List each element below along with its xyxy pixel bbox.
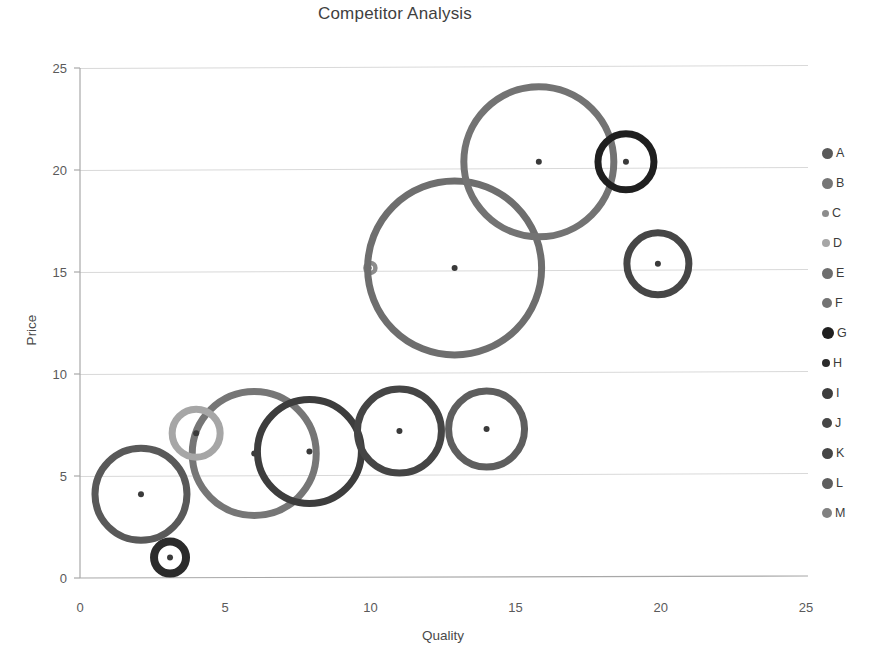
y-tick-label-5: 5 [60, 469, 67, 484]
legend-label-E: E [836, 267, 844, 280]
bubble-D [172, 409, 220, 457]
legend-swatch-K-icon [822, 448, 833, 459]
legend-item-L[interactable]: L [822, 468, 888, 498]
legend-item-M[interactable]: M [822, 498, 888, 528]
bubble-E [368, 181, 542, 355]
legend-item-F[interactable]: F [822, 288, 888, 318]
bubble-markers [95, 87, 689, 574]
bubble-center-dot-E [452, 265, 458, 271]
bubble-center-dot-F [536, 159, 542, 165]
legend-swatch-A-icon [822, 148, 833, 159]
gridline-y-15 [80, 270, 808, 273]
legend-label-D: D [833, 237, 842, 250]
bubble-center-dot-D [193, 430, 199, 436]
y-tick-label-15: 15 [53, 265, 67, 280]
gridline-y-10 [80, 372, 808, 375]
x-tick-label-10: 10 [363, 600, 377, 615]
bubble-center-dot-I [306, 449, 312, 455]
x-axis-line [80, 576, 808, 578]
x-tick-label-5: 5 [222, 600, 229, 615]
legend-swatch-C-icon [822, 210, 829, 217]
legend-item-C[interactable]: C [822, 198, 888, 228]
legend-swatch-G-icon [822, 327, 834, 339]
legend-item-B[interactable]: B [822, 168, 888, 198]
legend-label-F: F [835, 297, 843, 310]
legend-swatch-B-icon [822, 178, 833, 189]
legend-swatch-F-icon [822, 298, 832, 308]
legend-item-K[interactable]: K [822, 438, 888, 468]
plot-area: 0510152025 0510152025 Price Quality [0, 0, 893, 672]
y-axis-tick-labels: 0510152025 [53, 61, 67, 586]
legend-label-K: K [836, 447, 844, 460]
legend-label-J: J [835, 417, 841, 430]
legend-swatch-E-icon [822, 268, 833, 279]
bubble-J [627, 233, 689, 295]
gridlines [80, 66, 808, 477]
y-tick-label-0: 0 [60, 571, 67, 586]
legend-swatch-L-icon [822, 478, 833, 489]
x-tick-label-15: 15 [508, 600, 522, 615]
legend: ABCDEFGHIJKLM [822, 138, 888, 528]
legend-swatch-D-icon [822, 239, 830, 247]
legend-label-L: L [836, 477, 843, 490]
legend-item-G[interactable]: G [822, 318, 888, 348]
bubble-H [154, 542, 186, 574]
legend-swatch-M-icon [822, 508, 832, 518]
x-tick-label-20: 20 [654, 600, 668, 615]
bubble-A [95, 448, 187, 540]
x-tick-label-0: 0 [76, 600, 83, 615]
legend-item-H[interactable]: H [822, 348, 888, 378]
bubble-F [464, 87, 614, 237]
gridline-y-20 [80, 168, 808, 171]
x-axis-title: Quality [422, 628, 464, 643]
legend-item-E[interactable]: E [822, 258, 888, 288]
bubble-center-dot-J [655, 261, 661, 267]
bubble-G [598, 134, 654, 190]
bubble-L [449, 391, 525, 467]
x-tick-label-25: 25 [799, 600, 813, 615]
bubble-K [357, 389, 441, 473]
y-tick-label-10: 10 [53, 367, 67, 382]
legend-label-H: H [833, 357, 842, 370]
legend-item-J[interactable]: J [822, 408, 888, 438]
legend-label-A: A [836, 147, 844, 160]
legend-item-I[interactable]: I [822, 378, 888, 408]
legend-swatch-J-icon [822, 418, 832, 428]
bubble-center-dot-H [167, 555, 173, 561]
y-tick-label-25: 25 [53, 61, 67, 76]
y-axis-title: Price [24, 315, 39, 346]
x-axis-tick-labels: 0510152025 [76, 600, 813, 615]
bubble-center-dot-A [138, 491, 144, 497]
bubble-chart: Competitor Analysis 0510152025 051015202… [0, 0, 893, 672]
legend-item-A[interactable]: A [822, 138, 888, 168]
legend-label-C: C [832, 207, 841, 220]
gridline-y-25 [80, 66, 808, 69]
y-tick-label-20: 20 [53, 163, 67, 178]
bubble-center-dot-G [623, 159, 629, 165]
legend-label-M: M [835, 507, 845, 520]
legend-label-B: B [836, 177, 844, 190]
gridline-y-5 [80, 474, 808, 477]
legend-label-I: I [836, 387, 839, 400]
bubble-center-dot-L [484, 426, 490, 432]
legend-swatch-I-icon [822, 388, 833, 399]
legend-item-D[interactable]: D [822, 228, 888, 258]
legend-label-G: G [837, 327, 847, 340]
legend-swatch-H-icon [822, 359, 830, 367]
bubble-center-dot-K [396, 428, 402, 434]
